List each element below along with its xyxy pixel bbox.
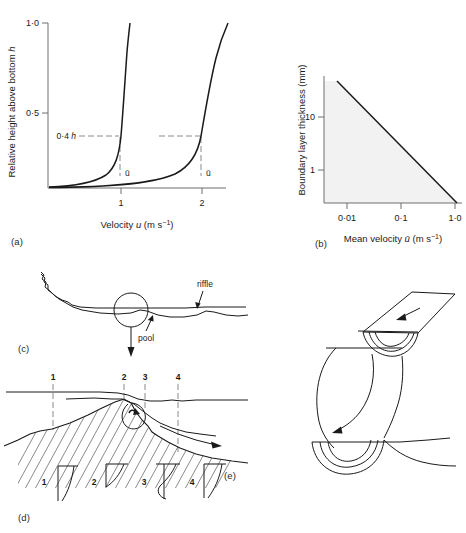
panel-d-flow-arrowhead [211,442,222,449]
panel-a-annotation-04h: 0·4 h [57,131,77,141]
panel-a-curve-2 [49,23,228,188]
panel-d-profile-inset-1: 1 [42,466,78,501]
panel-b-xlabel: Mean velocity ū (m s−1) [344,233,442,245]
panel-e-helical-flow: (e) [250,270,466,510]
panel-b-boundary-layer: Boundary layer thickness (mm) 10 1 0·01 … [233,0,466,250]
panel-d-profile-number-4: 4 [190,477,195,487]
panel-d-station-number-1: 1 [51,372,56,382]
panel-b-xtick-label-10: 1·0 [448,213,461,223]
panel-d-label: (d) [18,512,30,523]
panel-a-ytick-label-1: 1·0 [26,18,39,28]
panel-d-dune-bedform: 1 2 3 4 [0,368,250,533]
panel-b-svg: Boundary layer thickness (mm) 10 1 0·01 … [233,0,466,250]
panel-d-water-surface [6,392,248,401]
panel-c-down-arrow-head [128,347,135,357]
panel-e-bank-right [384,356,403,438]
panel-e-svg [250,270,466,510]
panel-a-xtick-label-2: 2 [199,198,204,208]
panel-e-lower-section-inner [328,440,371,461]
svg-text:Relative height above bottom h: Relative height above bottom h [6,47,17,178]
panel-a-svg: Relative height above bottom h 1·0 0·5 1… [0,0,233,250]
panel-e-lower-waterline [312,438,450,442]
panel-d-profile-inset-3: 3 [142,464,180,499]
panel-d-svg: 1 2 3 4 [0,368,250,533]
panel-d-station-number-4: 4 [176,372,181,382]
panel-b-shaded-region [324,81,457,203]
panel-c-svg: riffle pool [0,255,250,367]
svg-text:Boundary layer thickness (mm): Boundary layer thickness (mm) [296,65,307,196]
panel-c-bed-profile [41,274,248,317]
panel-e-lower-right-bank [384,440,456,466]
panel-d-profile-number-1: 1 [42,477,47,487]
panel-d-station-number-3: 3 [143,372,148,382]
panel-c-pool-arrowhead [148,315,154,321]
panel-d-profile-inset-4: 4 [190,464,226,498]
panel-c-label: (c) [18,343,29,354]
panel-e-helical-arrow-shaft [338,354,374,430]
panel-c-pool-label: pool [138,333,154,343]
panel-d-dune-outline [4,399,248,463]
panel-e-upper-section-outer [363,332,418,356]
panel-b-label: (b) [315,238,327,249]
panel-c-pool-riffle-profile: riffle pool (c) [0,255,250,367]
panel-b-xtick-label-001: 0·01 [338,213,356,223]
panel-a-xlabel: Velocity u (m s−1) [101,219,174,231]
panel-a-label: (a) [11,236,23,247]
panel-b-ylabel: Boundary layer thickness (mm) [296,65,307,196]
panel-e-upper-section-inner [375,332,409,346]
panel-a-ylabel: Relative height above bottom h [6,47,17,178]
panel-e-helical-arrowhead [332,427,343,434]
panel-a-velocity-profile: Relative height above bottom h 1·0 0·5 1… [0,0,233,250]
panel-e-upper-arrowhead [396,314,407,321]
panel-b-ytick-label-10: 10 [305,112,315,122]
panel-a-curve-1 [49,23,130,187]
panel-d-streamline-upper [66,398,216,436]
panel-a-ytick-label-2: 0·5 [26,108,39,118]
panel-d-profile-number-3: 3 [142,477,147,487]
panel-a-ubar-marker-1: ū [125,168,130,178]
panel-a-xtick-label-1: 1 [118,198,123,208]
panel-c-water-surface [41,272,246,308]
panel-c-riffle-label: riffle [197,279,213,289]
panel-a-ubar-marker-2: ū [206,168,211,178]
panel-e-lower-section-outer [312,440,384,474]
panel-e-label: (e) [224,470,236,481]
panel-d-profile-number-2: 2 [92,477,97,487]
panel-e-upper-surface [363,292,455,333]
panel-d-station-number-2: 2 [122,372,127,382]
panel-b-xtick-label-01: 0·1 [394,213,407,223]
panel-b-ytick-label-1: 1 [310,165,315,175]
